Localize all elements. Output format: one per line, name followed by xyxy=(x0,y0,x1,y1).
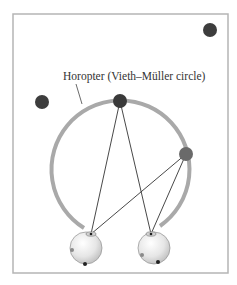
right-eye-retina-dot xyxy=(140,253,144,257)
fixation-point-top xyxy=(113,94,127,108)
right-eye xyxy=(138,232,170,264)
horopter-diagram: Horopter (Vieth–Müller circle) xyxy=(0,0,237,285)
horopter-label: Horopter (Vieth–Müller circle) xyxy=(63,70,206,83)
right-eye-nodal-dot xyxy=(150,233,153,236)
figure-frame xyxy=(13,14,228,273)
near-point-left xyxy=(35,95,49,109)
left-eye-fovea-dot xyxy=(83,262,87,266)
left-eye-retina-dot xyxy=(70,248,74,252)
right-eye-fovea-dot xyxy=(156,260,160,264)
far-point-top-right xyxy=(203,23,217,37)
horopter-point-right xyxy=(179,147,193,161)
left-eye-nodal-dot xyxy=(90,233,93,236)
